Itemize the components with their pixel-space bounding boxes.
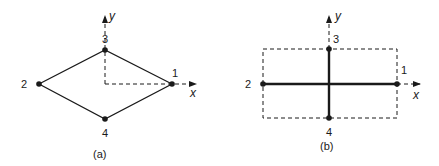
x-axis-label: x xyxy=(412,88,420,102)
node-3 xyxy=(102,47,108,53)
node-1-label: 1 xyxy=(172,67,178,79)
node-1 xyxy=(169,81,175,87)
diagram-a: y x 1 2 3 4 (a) xyxy=(21,9,197,160)
x-axis-label: x xyxy=(189,86,197,100)
node-1 xyxy=(394,81,400,87)
y-axis-label: y xyxy=(334,9,342,23)
node-3-label: 3 xyxy=(333,33,339,45)
node-4-label: 4 xyxy=(102,127,108,139)
node-2 xyxy=(36,81,42,87)
y-axis-label: y xyxy=(108,9,116,23)
node-3-label: 3 xyxy=(102,33,108,45)
node-4 xyxy=(102,116,108,122)
node-3 xyxy=(326,46,332,52)
caption-a: (a) xyxy=(93,148,106,160)
node-4 xyxy=(326,115,332,121)
node-2-label: 2 xyxy=(245,78,251,90)
diagram-canvas: y x 1 2 3 4 (a) y x 1 2 3 4 ( xyxy=(0,0,439,166)
node-2 xyxy=(260,81,266,87)
diagram-b: y x 1 2 3 4 (b) xyxy=(245,9,420,152)
node-1-label: 1 xyxy=(401,64,407,76)
caption-b: (b) xyxy=(320,140,333,152)
node-4-label: 4 xyxy=(326,126,332,138)
node-2-label: 2 xyxy=(21,78,27,90)
